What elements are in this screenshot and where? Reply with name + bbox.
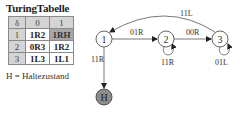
state-diagram: 01R 00R 11L 11R 01L 11R 1 2 3 H [0,0,248,114]
edge-3-self: 01L [215,44,229,67]
state-node-2: 2 [158,31,174,47]
halt-node: H [96,89,112,105]
edge-2-3: 00R [174,28,211,39]
svg-text:H: H [100,92,107,103]
edge-2-self: 11R [161,44,175,67]
svg-text:11R: 11R [161,58,175,67]
svg-text:01L: 01L [215,58,228,67]
edge-1-H: 11R [91,47,105,88]
svg-text:3: 3 [218,34,223,45]
state-node-3: 3 [212,31,228,47]
svg-text:01R: 01R [130,28,144,37]
svg-text:11L: 11L [180,9,193,18]
svg-text:1: 1 [102,34,107,45]
svg-text:2: 2 [164,34,169,45]
state-node-1: 1 [96,31,112,47]
svg-text:11R: 11R [91,55,105,64]
svg-text:00R: 00R [186,28,200,37]
edge-1-2: 01R [112,28,157,39]
